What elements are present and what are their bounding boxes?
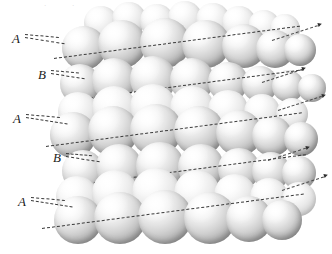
faint-mark: · xyxy=(72,2,74,10)
layer-label-b-upper: B xyxy=(38,68,46,81)
exit-a-middle-arrowhead xyxy=(321,93,326,98)
sphere xyxy=(262,200,302,240)
hcp-stacking-figure: ·· A B A B A xyxy=(0,0,332,254)
layer-label-a-top: A xyxy=(12,32,20,45)
sphere xyxy=(284,122,318,156)
sphere xyxy=(284,34,316,66)
layer-label-a-bottom: A xyxy=(18,195,26,208)
exit-b-upper-arrowhead xyxy=(301,66,306,71)
faint-mark: · xyxy=(44,2,46,10)
exit-a-bottom-arrowhead xyxy=(323,173,328,178)
exit-a-top-arrowhead xyxy=(317,22,322,27)
leader-a-top-2 xyxy=(25,34,59,38)
leader-a-top xyxy=(25,37,65,44)
layer-label-b-lower: B xyxy=(53,151,61,164)
layer-label-a-middle: A xyxy=(13,112,21,125)
leader-a-middle-2 xyxy=(26,114,60,118)
